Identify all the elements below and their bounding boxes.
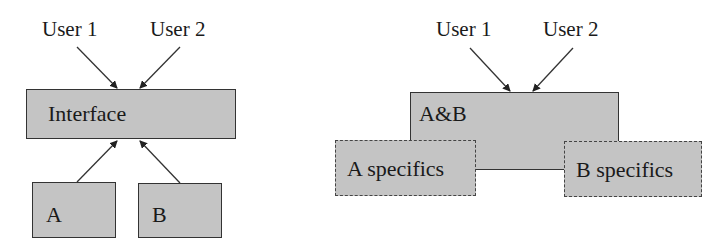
arrow-user2-to-interface bbox=[140, 47, 180, 88]
component-b-label: B bbox=[152, 204, 167, 226]
arrow-user1-to-interface bbox=[77, 47, 117, 88]
b-specifics-box: B specifics bbox=[564, 141, 702, 197]
interface-label: Interface bbox=[48, 103, 126, 125]
user-1-label-right: User 1 bbox=[436, 19, 491, 40]
arrow-user1-to-ab bbox=[470, 48, 510, 91]
arrow-user2-to-ab bbox=[533, 48, 573, 91]
b-specifics-label: B specifics bbox=[576, 159, 673, 181]
user-2-label-right: User 2 bbox=[543, 19, 598, 40]
interface-box: Interface bbox=[26, 89, 236, 139]
user-2-label: User 2 bbox=[150, 19, 205, 40]
user-1-label: User 1 bbox=[42, 19, 97, 40]
component-a-label: A bbox=[46, 204, 62, 226]
a-specifics-box: A specifics bbox=[335, 140, 476, 196]
shared-ab-label: A&B bbox=[419, 103, 467, 125]
arrow-b-to-interface bbox=[140, 141, 180, 183]
a-specifics-label: A specifics bbox=[347, 158, 444, 180]
component-b-box: B bbox=[138, 183, 222, 238]
component-a-box: A bbox=[32, 182, 116, 238]
arrow-a-to-interface bbox=[77, 141, 117, 182]
